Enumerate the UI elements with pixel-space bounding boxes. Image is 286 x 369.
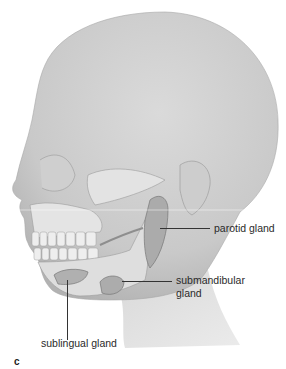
anatomy-figure: parotid gland submandibular gland sublin… bbox=[0, 0, 286, 369]
submandibular-gland-label-line1: submandibular bbox=[176, 274, 245, 286]
parotid-leader-line bbox=[160, 228, 210, 229]
sublingual-leader-line bbox=[67, 280, 68, 340]
submandibular-leader-line bbox=[122, 281, 172, 282]
sublingual-gland-label: sublingual gland bbox=[41, 337, 117, 349]
parotid-gland-label: parotid gland bbox=[214, 222, 275, 234]
panel-letter: c bbox=[14, 356, 20, 367]
submandibular-gland-label-line2: gland bbox=[176, 287, 202, 299]
head-illustration bbox=[0, 0, 286, 369]
